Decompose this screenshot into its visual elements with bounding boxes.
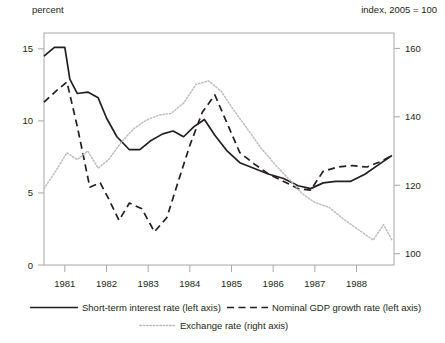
left-tick-label-0: 0: [28, 260, 33, 271]
chart-figure: 051015 100120140160 19811982198319841985…: [0, 0, 445, 343]
legend-label-nominal-gdp-growth-rate: Nominal GDP growth rate (left axis): [272, 302, 421, 313]
left-tick-label-5: 5: [28, 187, 33, 198]
plot-frame: [44, 33, 394, 265]
right-tick-label-120: 120: [405, 180, 421, 191]
x-tick-label-1987: 1987: [304, 278, 325, 289]
series-line-nominal-gdp-growth-rate: [44, 82, 392, 232]
x-tick-label-1981: 1981: [54, 278, 75, 289]
right-tick-label-160: 160: [405, 43, 421, 54]
right-tick-label-140: 140: [405, 111, 421, 122]
x-tick-label-1985: 1985: [221, 278, 242, 289]
x-tick-label-1982: 1982: [96, 278, 117, 289]
left-tick-label-15: 15: [22, 43, 33, 54]
right-tick-label-100: 100: [405, 248, 421, 259]
left-tick-label-10: 10: [22, 115, 33, 126]
right-axis-ticks: 100120140160: [394, 43, 421, 259]
legend-label-exchange-rate: Exchange rate (right axis): [180, 320, 288, 331]
x-tick-label-1988: 1988: [346, 278, 367, 289]
left-axis-ticks: 051015: [22, 43, 44, 270]
x-axis-ticks: 19811982198319841985198619871988: [54, 265, 367, 289]
legend-label-short-term-interest-rate: Short-term interest rate (left axis): [82, 302, 221, 313]
x-tick-label-1984: 1984: [179, 278, 200, 289]
series-layer: [44, 47, 392, 240]
chart-legend: Short-term interest rate (left axis)Nomi…: [30, 302, 421, 331]
series-line-exchange-rate: [44, 81, 392, 240]
x-tick-label-1986: 1986: [263, 278, 284, 289]
x-tick-label-1983: 1983: [138, 278, 159, 289]
